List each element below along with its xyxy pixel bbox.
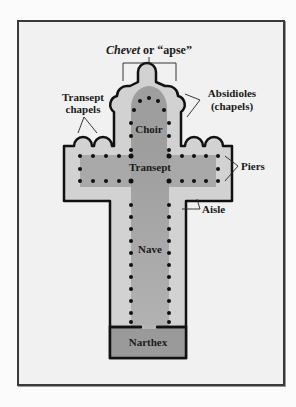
nave-label: Nave [138, 243, 162, 255]
aisle-label: Aisle [202, 203, 225, 215]
absidioles-label-line2: (chapels) [211, 100, 254, 113]
nave-area [131, 150, 169, 327]
cathedral-plan-diagram: Chevet or “apse” Transept chapels Absidi… [0, 0, 296, 407]
transept-chapels-label-line2: chapels [66, 103, 102, 115]
transept-chapels-label-line1: Transept [62, 91, 104, 103]
choir-label: Choir [135, 123, 163, 135]
absidioles-label-line1: Absidioles [208, 87, 257, 99]
chevet-label: Chevet or “apse” [106, 43, 192, 57]
narthex-label: Narthex [129, 336, 168, 348]
piers-label: Piers [241, 160, 266, 172]
transept-label: Transept [129, 161, 171, 173]
